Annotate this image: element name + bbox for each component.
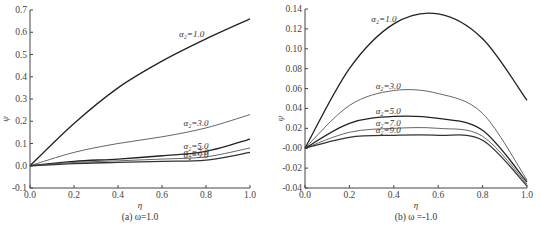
y-tick-label: 0.3 <box>15 94 27 104</box>
chart-0: 0.00.20.40.60.81.0-0.10.00.10.20.30.40.5… <box>0 5 256 223</box>
series-line <box>30 148 250 166</box>
y-tick-label: 0.7 <box>15 5 27 15</box>
y-tick-label: 0.5 <box>15 50 27 60</box>
y-tick-label: 0.02 <box>285 123 302 133</box>
y-tick-label: 0.04 <box>285 103 302 113</box>
y-tick-label: 0.06 <box>285 84 302 94</box>
y-tick-label: -0.04 <box>282 183 302 193</box>
y-tick-label: -0.00 <box>282 143 302 153</box>
x-tick-label: 0.4 <box>388 190 400 200</box>
x-tick-label: 1.0 <box>521 190 533 200</box>
series-label: α₂=1.0 <box>371 14 397 24</box>
y-tick-label: 0.2 <box>15 116 27 126</box>
chart-canvas: 0.00.20.40.60.81.0-0.10.00.10.20.30.40.5… <box>0 0 540 228</box>
chart-caption: (b) ω =-1.0 <box>395 212 438 223</box>
series-label: α₂=3.0 <box>183 118 209 128</box>
y-tick-label: 0.14 <box>285 4 302 14</box>
x-tick-label: 0.6 <box>432 190 444 200</box>
series-line <box>30 19 250 166</box>
y-tick-label: -0.02 <box>282 163 302 173</box>
chart-1: 0.00.20.40.60.81.0-0.04-0.02-0.000.020.0… <box>275 4 533 223</box>
y-tick-label: 0.1 <box>15 139 27 149</box>
y-axis-label: ψ <box>275 115 285 121</box>
y-tick-label: -0.1 <box>12 183 27 193</box>
x-tick-label: 0.2 <box>343 190 355 200</box>
x-tick-label: 0.4 <box>112 190 124 200</box>
y-tick-label: 0.6 <box>15 27 27 37</box>
x-tick-label: 0.8 <box>200 190 212 200</box>
x-tick-label: 0.8 <box>477 190 489 200</box>
x-tick-label: 0.2 <box>68 190 80 200</box>
series-label: α₂=3.0 <box>376 81 402 91</box>
x-tick-label: 1.0 <box>244 190 256 200</box>
y-tick-label: 0.12 <box>285 24 302 34</box>
series-line <box>30 152 250 165</box>
y-tick-label: 0.08 <box>285 64 302 74</box>
x-axis-label: η <box>414 200 419 210</box>
series-label: α₂=9.0 <box>183 150 209 160</box>
series-label: α₂=5.0 <box>376 106 402 116</box>
y-axis-label: ψ <box>0 116 10 122</box>
series-line <box>305 128 527 184</box>
series-label: α₂=1.0 <box>179 29 205 39</box>
x-axis-label: η <box>138 200 143 210</box>
y-tick-label: 0.0 <box>15 161 27 171</box>
y-tick-label: 0.10 <box>285 44 302 54</box>
series-label: α₂=9.0 <box>376 125 402 135</box>
chart-caption: (a) ω=1.0 <box>122 212 159 223</box>
x-tick-label: 0.6 <box>156 190 168 200</box>
series-line <box>305 135 527 186</box>
y-tick-label: 0.4 <box>15 72 27 82</box>
